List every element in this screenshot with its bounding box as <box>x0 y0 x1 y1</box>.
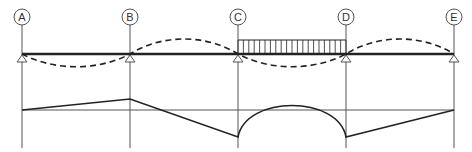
grid-label-a: A <box>18 11 26 23</box>
grid-label-e: E <box>450 11 457 23</box>
support-triangle-icon <box>449 55 459 62</box>
support-triangle-icon <box>125 55 135 62</box>
diagram-canvas: ABCDE <box>0 0 472 152</box>
grid-label-c: C <box>234 11 242 23</box>
support-triangle-icon <box>233 55 243 62</box>
grid-label-d: D <box>342 11 350 23</box>
beam-diagram: ABCDE <box>0 0 472 152</box>
grid-label-b: B <box>126 11 133 23</box>
